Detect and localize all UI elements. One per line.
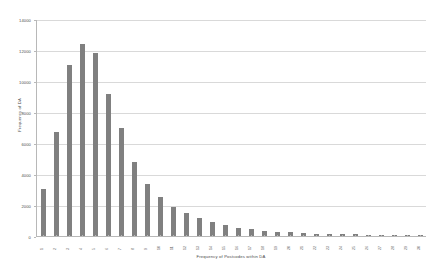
x-axis-tick-mark (121, 235, 122, 237)
x-axis-tick-mark (199, 235, 200, 237)
y-axis-tick-label: 8000 (0, 111, 31, 116)
y-axis-tick-labels: 02000400060008000100001200014000 (0, 20, 34, 237)
x-axis-tick-label: 28 (392, 246, 395, 250)
bar (54, 132, 60, 236)
x-axis-tick-mark (251, 235, 252, 237)
bar (80, 44, 86, 236)
x-axis-tick-mark (95, 235, 96, 237)
x-axis-tick-mark (290, 235, 291, 237)
x-axis-tick-label: 18 (262, 246, 265, 250)
x-axis-tick-label: 22 (314, 246, 317, 250)
bar (106, 94, 112, 236)
bar (93, 53, 99, 236)
x-axis-tick-mark (147, 235, 148, 237)
bar (41, 189, 47, 236)
bar (132, 162, 138, 236)
x-axis-tick-label: 10 (158, 246, 161, 250)
x-axis-tick-mark (355, 235, 356, 237)
bar (171, 207, 177, 236)
x-axis-tick-label: 17 (249, 246, 252, 250)
x-axis-tick-label: 9 (145, 248, 148, 250)
x-axis-tick-label: 5 (93, 248, 96, 250)
x-axis-tick-mark (277, 235, 278, 237)
y-axis-tick-label: 14000 (0, 18, 31, 23)
bar-chart: Frequency of DA 020004000600080001000012… (0, 0, 440, 270)
x-axis-tick-mark (264, 235, 265, 237)
bar (67, 65, 73, 236)
bar (210, 222, 216, 236)
y-axis-tick-label: 0 (0, 235, 31, 240)
x-axis-tick-mark (173, 235, 174, 237)
bar (197, 218, 203, 236)
x-axis-tick-mark (82, 235, 83, 237)
x-axis-tick-label: 30 (418, 246, 421, 250)
x-axis-tick-mark (342, 235, 343, 237)
x-axis-tick-mark (368, 235, 369, 237)
x-axis-tick-mark (420, 235, 421, 237)
x-axis-tick-mark (238, 235, 239, 237)
x-axis-tick-label: 19 (275, 246, 278, 250)
x-axis-tick-label: 14 (210, 246, 213, 250)
x-axis-tick-mark (108, 235, 109, 237)
y-axis-tick-label: 12000 (0, 49, 31, 54)
x-axis-tick-label: 25 (353, 246, 356, 250)
x-axis-tick-label: 4 (80, 248, 83, 250)
x-axis-tick-label: 27 (379, 246, 382, 250)
x-axis-tick-mark (134, 235, 135, 237)
bar (145, 184, 151, 236)
bar (119, 128, 125, 237)
y-axis-tick-label: 6000 (0, 142, 31, 147)
bar (158, 197, 164, 236)
x-axis-tick-mark (160, 235, 161, 237)
x-axis-tick-label: 20 (288, 246, 291, 250)
x-axis-tick-label: 12 (184, 246, 187, 250)
x-axis-tick-mark (43, 235, 44, 237)
x-axis-tick-label: 3 (67, 248, 70, 250)
x-axis-tick-label: 13 (197, 246, 200, 250)
x-axis-tick-mark (394, 235, 395, 237)
x-axis-tick-label: 11 (171, 246, 174, 250)
x-axis-tick-mark (56, 235, 57, 237)
x-axis-tick-label: 26 (366, 246, 369, 250)
x-axis-tick-label: 2 (54, 248, 57, 250)
x-axis-tick-label: 8 (132, 248, 135, 250)
x-axis-tick-label: 16 (236, 246, 239, 250)
bars-layer (37, 20, 426, 236)
x-axis-tick-label: 15 (223, 246, 226, 250)
x-axis-tick-mark (407, 235, 408, 237)
y-axis-tick-label: 10000 (0, 80, 31, 85)
x-axis-tick-label: 23 (327, 246, 330, 250)
x-axis-tick-label: 7 (119, 248, 122, 250)
x-axis-tick-mark (225, 235, 226, 237)
bar (184, 213, 190, 236)
x-axis-tick-mark (329, 235, 330, 237)
x-axis-tick-label: 6 (106, 248, 109, 250)
x-axis-tick-label: 24 (340, 246, 343, 250)
x-axis-tick-mark (316, 235, 317, 237)
y-axis-tick-label: 2000 (0, 204, 31, 209)
x-axis-tick-labels: 1234567891011121314151617181920212223242… (36, 237, 426, 251)
x-axis-tick-mark (212, 235, 213, 237)
x-axis-tick-label: 21 (301, 246, 304, 250)
x-axis-title: Frequency of Postcodes within DA (35, 254, 427, 259)
x-axis-tick-mark (69, 235, 70, 237)
x-axis-tick-mark (381, 235, 382, 237)
plot-area (36, 20, 426, 237)
x-axis-tick-mark (303, 235, 304, 237)
y-axis-tick-label: 4000 (0, 173, 31, 178)
x-axis-tick-label: 29 (405, 246, 408, 250)
x-axis-tick-label: 1 (41, 248, 44, 250)
x-axis-tick-mark (186, 235, 187, 237)
